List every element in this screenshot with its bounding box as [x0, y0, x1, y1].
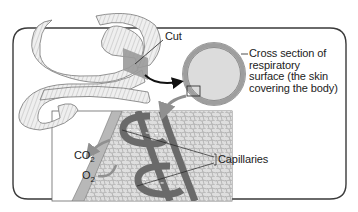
co2-subscript: 2 — [90, 155, 94, 164]
co2-label: CO2 — [74, 150, 95, 166]
cross-section-ring — [185, 45, 243, 103]
cross-section-line-3: surface (the skin — [249, 71, 338, 83]
cross-section-label: Cross section of respiratory surface (th… — [249, 48, 338, 94]
co2-base: CO — [74, 149, 90, 161]
cut-label: Cut — [165, 31, 182, 43]
cross-section-line-1: Cross section of — [249, 48, 338, 60]
capillaries-label: Capillaries — [218, 154, 268, 166]
o2-label: O2 — [82, 170, 95, 186]
o2-subscript: 2 — [90, 175, 94, 184]
cross-section-line-4: covering the body) — [249, 83, 338, 95]
